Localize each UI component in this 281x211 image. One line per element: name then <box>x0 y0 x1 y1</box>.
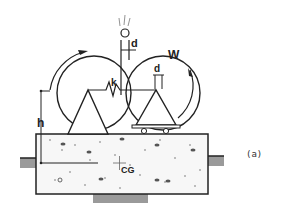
rotation-arrow-left <box>50 52 84 90</box>
w-label: W <box>168 48 180 62</box>
rotation-arrow-right <box>178 70 193 118</box>
k-label: k <box>111 77 117 88</box>
h-label: h <box>37 116 44 130</box>
figure-caption: (a) <box>246 149 262 159</box>
twin-roller-diagram: h CG k d d W (a) <box>0 0 281 211</box>
support-left <box>68 90 108 134</box>
ball-icon <box>121 29 129 37</box>
ground-pad-right <box>208 156 224 166</box>
support-right <box>136 90 176 125</box>
d-top-label: d <box>131 37 138 49</box>
spring-k <box>88 82 156 96</box>
cg-label: CG <box>121 165 135 175</box>
d-right-label: d <box>154 63 160 74</box>
ground-pad-left <box>20 158 36 168</box>
